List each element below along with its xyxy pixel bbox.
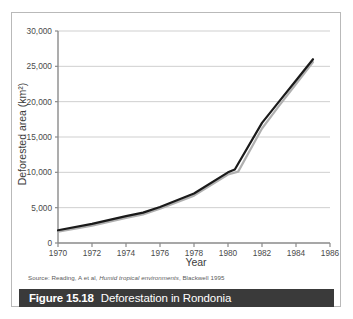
source-prefix: Source: Reading, A et al, bbox=[28, 274, 99, 281]
x-axis-title: Year bbox=[56, 256, 336, 268]
y-axis-tick-label: 15,000 bbox=[27, 132, 53, 142]
chart-plot-area: 05,00010,00015,00020,00025,00030,0001970… bbox=[0, 0, 353, 319]
figure-caption-title: Deforestation in Rondonia bbox=[101, 292, 231, 304]
y-axis-tick-label: 0 bbox=[47, 238, 52, 248]
line-chart-svg: 05,00010,00015,00020,00025,00030,0001970… bbox=[0, 0, 353, 319]
data-line-series bbox=[58, 62, 313, 232]
source-note: Source: Reading, A et al, Humid tropical… bbox=[28, 274, 224, 281]
y-axis-tick-label: 5,000 bbox=[31, 203, 52, 213]
figure-caption-bar: Figure 15.18 Deforestation in Rondonia bbox=[19, 289, 334, 307]
figure-container: 05,00010,00015,00020,00025,00030,0001970… bbox=[0, 0, 353, 319]
y-axis-tick-label: 25,000 bbox=[27, 61, 53, 71]
source-suffix: , Blackwell 1995 bbox=[179, 274, 225, 281]
figure-caption-number: Figure 15.18 bbox=[29, 292, 94, 304]
source-italic-title: Humid tropical environments bbox=[99, 274, 179, 281]
y-axis-title: Deforested area (km²) bbox=[16, 79, 28, 189]
y-axis-tick-label: 30,000 bbox=[27, 26, 53, 36]
y-axis-tick-label: 20,000 bbox=[27, 97, 53, 107]
y-axis-tick-label: 10,000 bbox=[27, 167, 53, 177]
data-line-series bbox=[58, 59, 313, 230]
